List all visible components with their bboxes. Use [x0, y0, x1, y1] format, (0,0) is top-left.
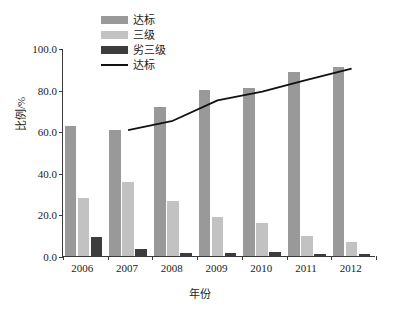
bar-2008-series-0: [154, 107, 166, 256]
y-axis-tick-mark: [59, 132, 63, 133]
x-axis-tick-label: 2009: [206, 262, 228, 274]
bar-2012-series-0: [333, 67, 345, 256]
bar-2011-series-2: [314, 254, 326, 256]
legend-item-sanji: 三级: [101, 27, 221, 42]
x-axis-tick-label: 2008: [161, 262, 183, 274]
bar-2007-series-0: [109, 130, 121, 256]
y-axis-tick-mark: [59, 49, 63, 50]
legend-item-dabiao-bar: 达标: [101, 12, 221, 27]
bar-2011-series-0: [288, 72, 300, 256]
y-axis-tick-mark: [59, 174, 63, 175]
x-axis-tick-mark: [287, 256, 288, 260]
bar-2008-series-2: [180, 253, 192, 256]
plot-area: 0.020.040.060.080.0100.0: [62, 49, 375, 257]
bar-2012-series-1: [346, 242, 358, 256]
bar-2006-series-0: [65, 126, 77, 256]
x-axis-tick-label: 2007: [116, 262, 138, 274]
y-axis-tick-mark: [59, 215, 63, 216]
x-axis-title: 年份: [0, 285, 399, 301]
bar-2006-series-2: [91, 237, 103, 256]
legend-swatch-dabiao-bar: [101, 16, 128, 24]
bar-2008-series-1: [167, 201, 179, 256]
bar-2011-series-1: [301, 236, 313, 256]
y-axis-title: 比例/%: [12, 97, 28, 131]
x-axis-tick-label: 2010: [250, 262, 272, 274]
bar-2009-series-0: [199, 90, 211, 256]
y-axis-tick-mark: [59, 91, 63, 92]
x-axis-tick-mark: [376, 256, 377, 260]
bar-2010-series-1: [256, 223, 268, 256]
x-axis-tick-label: 2011: [295, 262, 317, 274]
x-axis-tick-mark: [108, 256, 109, 260]
legend-label-sanji: 三级: [133, 29, 155, 41]
bar-2010-series-0: [243, 88, 255, 256]
legend-label-dabiao-bar: 达标: [133, 14, 155, 26]
bar-2009-series-2: [225, 253, 237, 256]
x-axis-tick-mark: [242, 256, 243, 260]
bar-2009-series-1: [212, 217, 224, 256]
bar-2010-series-2: [269, 252, 281, 256]
bar-2006-series-1: [78, 198, 90, 256]
bar-2012-series-2: [359, 254, 371, 256]
x-axis-tick-label: 2006: [71, 262, 93, 274]
x-axis-tick-mark: [331, 256, 332, 260]
bar-2007-series-2: [135, 249, 147, 256]
chart-container: 达标 三级 劣三级 达标 比例/% 0.020.040.060.080.0100…: [0, 0, 399, 311]
x-axis-tick-mark: [63, 256, 64, 260]
x-axis-tick-label: 2012: [340, 262, 362, 274]
legend-swatch-sanji: [101, 31, 128, 39]
x-axis-tick-mark: [152, 256, 153, 260]
x-axis-tick-mark: [197, 256, 198, 260]
bar-2007-series-1: [122, 182, 134, 256]
